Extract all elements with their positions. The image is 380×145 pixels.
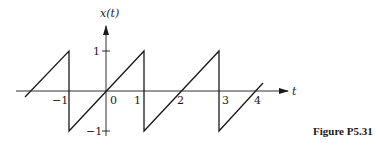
- figure-canvas: x(t) t 1 −1 −1 0 1 2 3 4 Figure P5.31: [0, 0, 380, 145]
- x-tick-label-4: 4: [254, 94, 261, 107]
- x-axis-label: t: [292, 85, 297, 98]
- x-tick-label-2: 2: [177, 94, 184, 107]
- figure-caption: Figure P5.31: [313, 125, 373, 137]
- x-tick-label-1: 1: [134, 94, 141, 107]
- x-tick-label-3: 3: [222, 94, 229, 107]
- y-tick-label-neg1: −1: [86, 125, 102, 138]
- y-axis-label: x(t): [100, 7, 119, 20]
- y-tick-label-1: 1: [93, 45, 100, 58]
- x-tick-label-neg1: −1: [52, 94, 68, 107]
- x-tick-label-0: 0: [110, 94, 117, 107]
